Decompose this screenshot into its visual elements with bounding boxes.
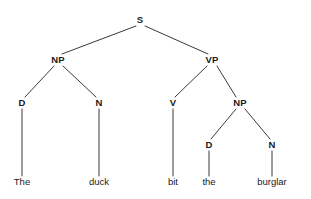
node-n-subject: N [95, 98, 102, 108]
leaf-duck: duck [89, 177, 109, 187]
node-v: V [170, 98, 177, 108]
node-n-object: N [268, 140, 275, 150]
edge-np-subject-d [25, 66, 54, 97]
edge-s-np-subject [62, 26, 136, 54]
node-vp: VP [205, 55, 218, 65]
leaf-the-object: the [202, 177, 215, 187]
tree-edges [0, 0, 311, 199]
edge-np-object-d [211, 109, 236, 139]
syntax-tree-figure: … … … S NP VP D N V NP D N The duck bit … [0, 0, 311, 199]
node-d-subject: D [18, 98, 25, 108]
leaf-bit: bit [168, 177, 178, 187]
edge-np-object-n [245, 109, 270, 139]
node-np-object: NP [233, 98, 247, 108]
edge-np-subject-n [63, 66, 96, 97]
leaf-the-subject: The [14, 177, 30, 187]
edge-vp-v [175, 66, 207, 97]
edge-vp-np-object [217, 66, 236, 97]
leaf-burglar: burglar [257, 177, 287, 187]
node-s: S [137, 15, 144, 25]
node-d-object: D [205, 140, 212, 150]
edge-s-vp [145, 26, 208, 54]
node-np-subject: NP [51, 55, 65, 65]
